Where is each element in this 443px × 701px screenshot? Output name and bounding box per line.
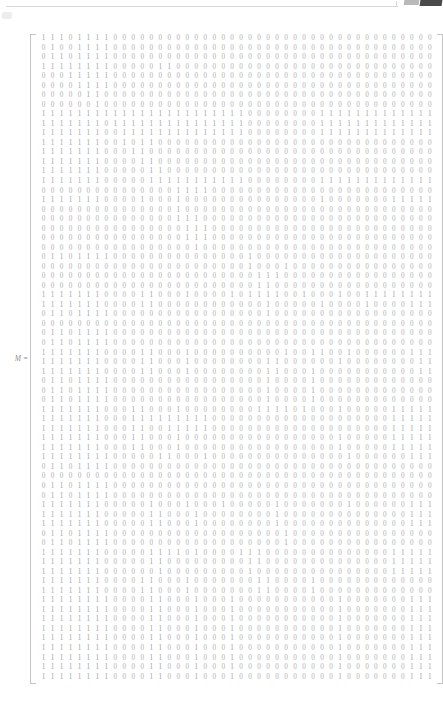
matrix-cell: 0 <box>407 272 416 282</box>
matrix-cell: 1 <box>425 596 434 606</box>
matrix-cell: 0 <box>156 272 165 282</box>
matrix-cell: 1 <box>84 53 93 63</box>
matrix-cell: 0 <box>120 253 129 263</box>
matrix-cell: 0 <box>129 339 138 349</box>
matrix-cell: 0 <box>138 272 147 282</box>
matrix-cell: 0 <box>174 310 183 320</box>
matrix-cell: 1 <box>407 453 416 463</box>
matrix-cell: 0 <box>201 511 210 521</box>
matrix-cell: 0 <box>416 44 425 54</box>
matrix-cell: 0 <box>84 263 93 273</box>
matrix-cell: 0 <box>39 539 48 549</box>
matrix-cell: 1 <box>174 434 183 444</box>
matrix-cell: 0 <box>174 44 183 54</box>
page-header <box>0 0 443 22</box>
matrix-cell: 1 <box>425 291 434 301</box>
matrix-cell: 0 <box>407 577 416 587</box>
matrix-cell: 0 <box>138 53 147 63</box>
matrix-cell: 0 <box>327 558 336 568</box>
matrix-cell: 0 <box>389 72 398 82</box>
matrix-cell: 1 <box>102 644 111 654</box>
matrix-cell: 0 <box>255 387 264 397</box>
matrix-cell: 0 <box>282 320 291 330</box>
matrix-cell: 0 <box>210 91 219 101</box>
matrix-cell: 1 <box>75 377 84 387</box>
matrix-cell: 0 <box>353 234 362 244</box>
matrix-cell: 1 <box>407 644 416 654</box>
matrix-cell: 0 <box>362 53 371 63</box>
matrix-cell: 0 <box>371 596 380 606</box>
matrix-cell: 0 <box>174 511 183 521</box>
matrix-cell: 0 <box>273 577 282 587</box>
matrix-cell: 0 <box>300 177 309 187</box>
matrix-cell: 0 <box>425 472 434 482</box>
matrix-cell: 0 <box>246 282 255 292</box>
matrix-cell: 0 <box>174 520 183 530</box>
matrix-cell: 0 <box>425 215 434 225</box>
matrix-row: 1111111000010001000000000000000100000001… <box>39 196 434 206</box>
matrix-cell: 0 <box>300 63 309 73</box>
matrix-cell: 1 <box>39 644 48 654</box>
matrix-cell: 1 <box>407 177 416 187</box>
matrix-cell: 1 <box>246 263 255 273</box>
matrix-cell: 0 <box>201 482 210 492</box>
matrix-cell: 1 <box>66 301 75 311</box>
matrix-cell: 0 <box>362 158 371 168</box>
matrix-cell: 0 <box>335 234 344 244</box>
matrix-cell: 0 <box>174 377 183 387</box>
matrix-cell: 0 <box>380 206 389 216</box>
matrix-cell: 0 <box>273 453 282 463</box>
matrix-cell: 0 <box>264 606 273 616</box>
matrix-cell: 0 <box>102 91 111 101</box>
matrix-cell: 0 <box>282 568 291 578</box>
matrix-cell: 0 <box>309 511 318 521</box>
matrix-cell: 0 <box>300 492 309 502</box>
matrix-row: 1111111100001100010001000000000001000000… <box>39 596 434 606</box>
matrix-cell: 0 <box>353 349 362 359</box>
matrix-cell: 0 <box>138 549 147 559</box>
matrix-cell: 1 <box>425 434 434 444</box>
matrix-cell: 1 <box>192 110 201 120</box>
matrix-cell: 0 <box>282 167 291 177</box>
matrix-cell: 0 <box>210 530 219 540</box>
matrix-cell: 0 <box>138 244 147 254</box>
matrix-cell: 0 <box>138 492 147 502</box>
matrix-cell: 0 <box>291 492 300 502</box>
matrix-cell: 0 <box>327 415 336 425</box>
matrix-cell: 0 <box>389 225 398 235</box>
matrix-cell: 0 <box>48 282 57 292</box>
matrix-cell: 1 <box>93 358 102 368</box>
matrix-cell: 0 <box>255 196 264 206</box>
matrix-cell: 0 <box>371 34 380 44</box>
matrix-cell: 1 <box>57 177 66 187</box>
matrix-cell: 0 <box>129 158 138 168</box>
matrix-cell: 0 <box>335 101 344 111</box>
matrix-cell: 0 <box>201 72 210 82</box>
matrix-cell: 1 <box>380 129 389 139</box>
matrix-cell: 0 <box>318 463 327 473</box>
matrix-cell: 0 <box>407 72 416 82</box>
matrix-cell: 0 <box>273 91 282 101</box>
matrix-cell: 0 <box>66 463 75 473</box>
matrix-cell: 1 <box>48 196 57 206</box>
matrix-cell: 1 <box>335 434 344 444</box>
matrix-cell: 0 <box>362 558 371 568</box>
matrix-cell: 0 <box>120 530 129 540</box>
matrix-cell: 0 <box>111 549 120 559</box>
matrix-cell: 1 <box>39 587 48 597</box>
matrix-cell: 0 <box>156 425 165 435</box>
matrix-cell: 0 <box>282 368 291 378</box>
matrix-cell: 1 <box>75 530 84 540</box>
matrix-cell: 0 <box>282 482 291 492</box>
matrix-cell: 0 <box>362 425 371 435</box>
matrix-cell: 1 <box>156 110 165 120</box>
matrix-cell: 0 <box>138 44 147 54</box>
matrix-cell: 0 <box>147 453 156 463</box>
matrix-cell: 0 <box>111 272 120 282</box>
matrix-cell: 0 <box>246 129 255 139</box>
matrix-cell: 0 <box>300 634 309 644</box>
matrix-cell: 0 <box>255 368 264 378</box>
matrix-cell: 0 <box>219 234 228 244</box>
matrix-row: 0110111100000000000000000001000000000000… <box>39 539 434 549</box>
matrix-cell: 0 <box>362 644 371 654</box>
